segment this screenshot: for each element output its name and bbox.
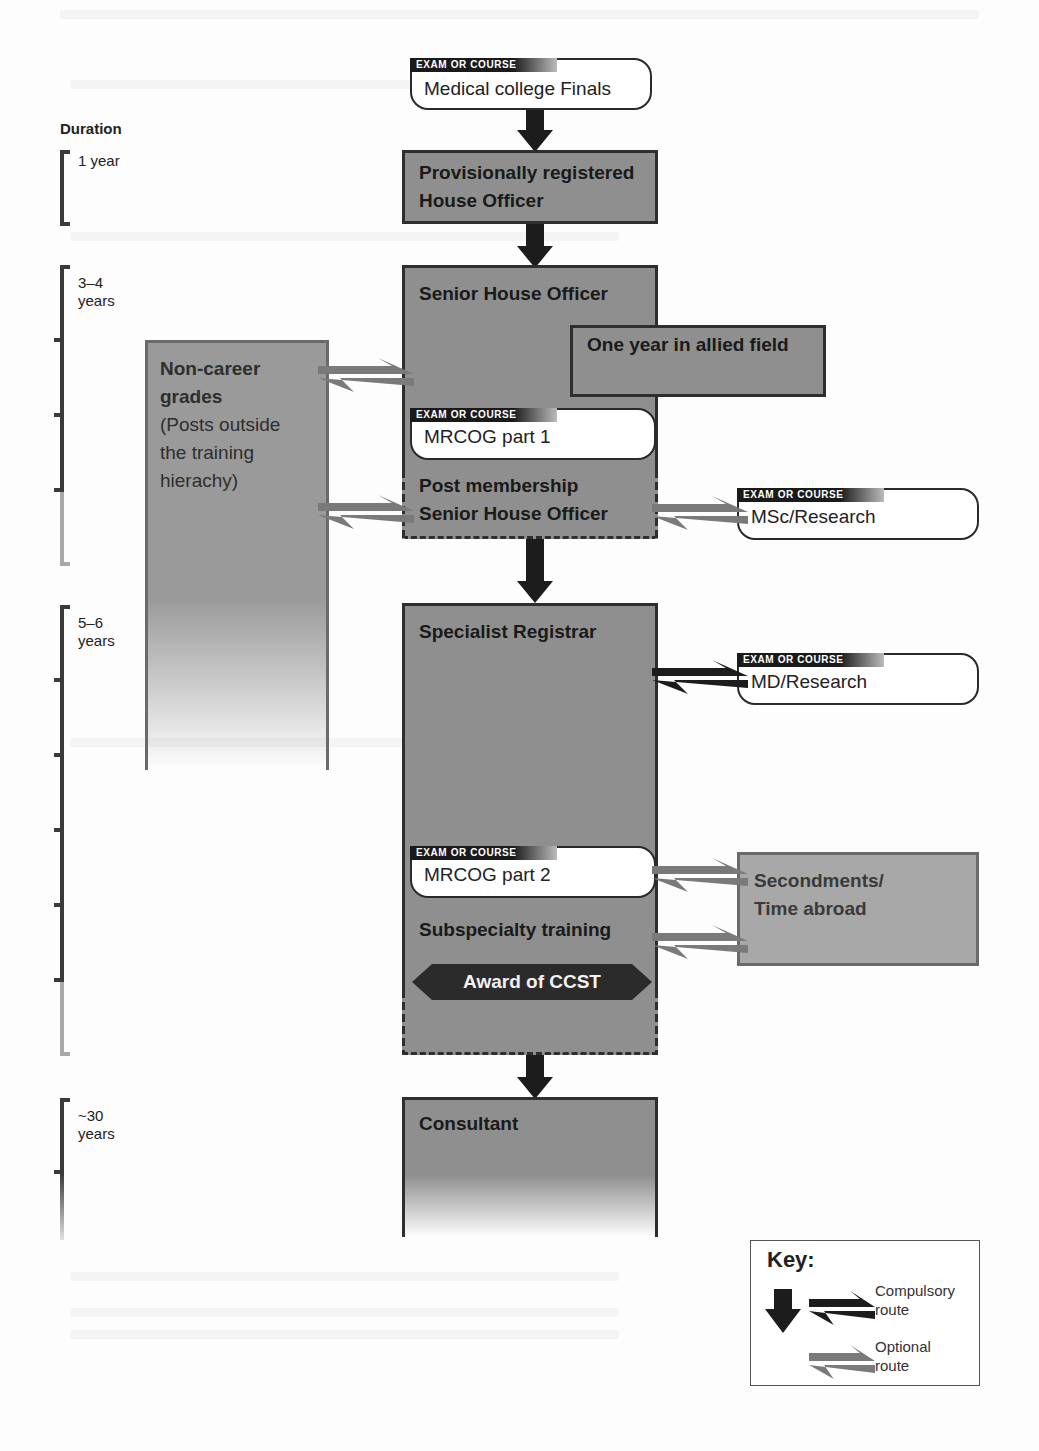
duration-label-1-year: 1 year (78, 152, 120, 170)
duration-label-3-4-years: 3–4years (78, 274, 128, 310)
duration-label-5-6-years: 5–6years (78, 614, 128, 650)
node-mrcog-part-2: EXAM OR COURSE MRCOG part 2 (410, 846, 656, 898)
node-md-research: EXAM OR COURSE MD/Research (737, 653, 979, 705)
compulsory-arrow-down-icon (517, 539, 553, 605)
dashed-border-right (655, 990, 658, 1055)
node-non-career-grades: Non-career grades (Posts outside the tra… (145, 340, 329, 770)
node-house-officer: Provisionally registered House Officer (402, 150, 658, 224)
key-compulsory-label: Compulsory route (875, 1281, 955, 1319)
key-compulsory-two-way-arrow-icon (809, 1291, 875, 1335)
duration-bar-3-4-years (60, 265, 70, 566)
node-medical-college-finals: EXAM OR COURSE Medical college Finals (410, 58, 652, 110)
key-title: Key: (767, 1247, 815, 1273)
exam-tag: EXAM OR COURSE (410, 408, 557, 422)
key-compulsory-down-arrow-icon (765, 1289, 801, 1333)
exam-tag: EXAM OR COURSE (737, 653, 884, 667)
optional-two-way-arrow-icon (318, 495, 408, 535)
duration-bar-1-year (60, 150, 70, 226)
node-consultant: Consultant (402, 1097, 658, 1237)
optional-two-way-arrow-icon (652, 925, 742, 965)
duration-bar-5-6-years (60, 605, 70, 1056)
node-award-of-ccst: Award of CCST (412, 964, 652, 1000)
node-subspecialty-training: Subspecialty training (419, 916, 611, 944)
node-secondments-time-abroad: Secondments/ Time abroad (737, 852, 979, 966)
optional-two-way-arrow-icon (652, 858, 742, 898)
optional-two-way-arrow-icon (652, 496, 742, 536)
node-mrcog-part-1: EXAM OR COURSE MRCOG part 1 (410, 408, 656, 460)
compulsory-two-way-arrow-icon (652, 660, 742, 700)
node-senior-house-officer: Senior House Officer Post membership Sen… (402, 265, 658, 539)
dashed-border-left (402, 990, 405, 1055)
key-optional-label: Optional route (875, 1337, 931, 1375)
duration-title: Duration (60, 120, 122, 137)
node-msc-research: EXAM OR COURSE MSc/Research (737, 488, 979, 540)
compulsory-arrow-down-icon (517, 110, 553, 152)
compulsory-arrow-down-icon (517, 1055, 553, 1099)
exam-tag: EXAM OR COURSE (410, 58, 557, 72)
node-one-year-allied-field: One year in allied field (570, 325, 826, 397)
duration-bar-30-years (60, 1098, 70, 1240)
legend-key: Key: Compulsory route Optional route (750, 1240, 980, 1386)
duration-label-30-years: ~30years (78, 1107, 128, 1143)
key-optional-two-way-arrow-icon (809, 1345, 875, 1389)
compulsory-arrow-down-icon (517, 224, 553, 268)
node-post-membership-sho: Post membership (419, 472, 578, 500)
exam-tag: EXAM OR COURSE (410, 846, 557, 860)
optional-two-way-arrow-icon (318, 358, 408, 398)
exam-tag: EXAM OR COURSE (737, 488, 884, 502)
